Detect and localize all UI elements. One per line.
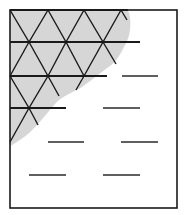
diagram-canvas [0,0,187,215]
lattice-diagram [0,0,187,215]
